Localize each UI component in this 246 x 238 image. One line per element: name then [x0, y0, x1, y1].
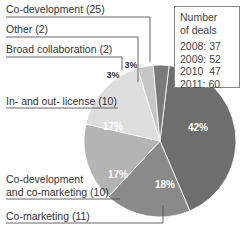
legend-value: 47: [209, 65, 221, 77]
legend-title-line2: of deals: [180, 24, 234, 37]
legend-year: 2010: [180, 65, 203, 77]
legend-value: 52: [209, 53, 221, 65]
legend-value: 60: [208, 78, 220, 90]
legend-title-line1: Number: [180, 11, 234, 24]
legend-title: Number of deals: [180, 11, 234, 36]
label-in-out-license: In- and out- license (10): [6, 95, 117, 107]
legend-year: 2009:: [180, 53, 206, 65]
legend-year: 2008:: [180, 40, 206, 52]
pct-other: 3%: [124, 60, 137, 70]
pct-broad-collaboration: 3%: [106, 70, 119, 80]
legend-row-2009: 2009: 52: [180, 53, 234, 66]
deals-legend-box: Number of deals 2008: 37 2009: 52 2010 4…: [174, 6, 240, 88]
label-co-dev-co-marketing-line1: Co-development: [6, 173, 83, 185]
legend-year: 2011:: [180, 78, 206, 90]
leader-broad-collaboration: [6, 57, 122, 70]
label-co-development: Co-development (25): [6, 3, 105, 15]
legend-row-2010: 2010 47: [180, 65, 234, 78]
legend-row-2008: 2008: 37: [180, 40, 234, 53]
pct-co-marketing: 18%: [155, 179, 175, 190]
label-co-dev-co-marketing-line2: and co-marketing (10): [6, 186, 109, 198]
pct-co-development: 42%: [188, 122, 208, 133]
legend-value: 37: [209, 40, 221, 52]
label-other: Other (2): [6, 23, 48, 35]
label-co-marketing: Co-marketing (11): [6, 210, 90, 222]
legend-row-2011: 2011: 60: [180, 78, 234, 91]
label-broad-collaboration: Broad collaboration (2): [6, 43, 112, 55]
pct-in-out-license: 17%: [103, 121, 123, 132]
pct-co-dev-co-marketing: 17%: [108, 169, 128, 180]
